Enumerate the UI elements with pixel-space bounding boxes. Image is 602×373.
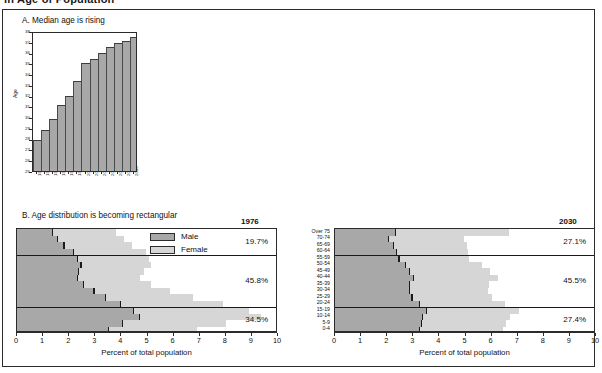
panel-a-y-tick: 34 [14,73,30,77]
pyramid-x-tick: 0 [9,336,23,345]
panel-a-plot-area [32,32,137,172]
age-group-label: Over 75 [312,229,330,234]
panel-a-y-tick: 36 [14,51,30,55]
pyramid-x-tick: 8 [536,336,550,345]
pyramid-1976-year-label: 1976 [241,217,259,226]
age-group-label: 0-4 [323,326,331,331]
panel-a-y-tickmark [29,172,32,173]
pyramid-x-axis-title: Percent of total population [334,348,595,357]
legend-label-female: Female [181,245,208,254]
age-group-label: 35-39 [317,281,330,286]
pyramid-x-tick: 4 [431,336,445,345]
pyramid-segment-divider [335,255,594,256]
pyramid-x-tick: 10 [588,336,602,345]
panel-a-y-tick: 32 [14,94,30,98]
pyramid-x-tick: 7 [510,336,524,345]
age-group-label: 30-34 [317,287,330,292]
pyramid-x-tick: 0 [327,336,341,345]
pyramid-x-tick: 1 [353,336,367,345]
panel-a-y-tick: 35 [14,62,30,66]
age-group-label: 55-59 [317,255,330,260]
pyramid-x-tick: 7 [192,336,206,345]
panel-a-y-tick: 30 [14,116,30,120]
age-group-label: 40-44 [317,274,330,279]
pyramid-2030-plot-area: 27.1%45.5%27.4% [334,228,595,332]
pyramid-segment-percent: 19.7% [245,237,268,246]
cropped-caption-strip: in Age of Population [0,0,599,7]
age-group-label: 10-14 [317,313,330,318]
pyramid-segment-percent: 45.8% [245,276,268,285]
pyramid-x-tick: 8 [218,336,232,345]
pyramid-x-tick: 4 [113,336,127,345]
panel-a-y-tick: 27 [14,148,30,152]
pyramid-segment-percent: 27.4% [563,315,586,324]
pyramid-x-tick: 2 [379,336,393,345]
age-group-label: 20-24 [317,300,330,305]
pyramid-2030-year-label: 2030 [559,217,577,226]
age-group-label: 60-64 [317,248,330,253]
age-group-label: 5-9 [323,320,331,325]
panel-a-y-tick: 31 [14,105,30,109]
pyramid-1976-plot-area: 19.7%45.8%34.5% [16,228,277,332]
panel-a-y-tick: 37 [14,41,30,45]
pyramid-x-tick: 5 [140,336,154,345]
pyramid-segment-percent: 27.1% [563,237,586,246]
pyramid-x-tick: 6 [166,336,180,345]
legend-label-male: Male [181,232,198,241]
age-group-label: 25-29 [317,294,330,299]
age-group-label: 70-74 [317,235,330,240]
panel-a-y-tick: 38 [14,30,30,34]
panel-b-title: B. Age distribution is becoming rectangu… [22,211,177,220]
pyramid-segment-divider [17,255,276,256]
pyramid-x-tick: 9 [562,336,576,345]
pyramid-x-tick: 1 [35,336,49,345]
legend-swatch-male [150,233,175,241]
age-group-label: 65-69 [317,242,330,247]
pyramid-x-tick: 3 [405,336,419,345]
panel-a-y-tick: 26 [14,159,30,163]
median-age-step [130,37,137,171]
pyramid-segment-percent: 45.5% [563,276,586,285]
panel-a-y-tick: 29 [14,127,30,131]
panel-a-y-tick: 28 [14,137,30,141]
age-group-label: 45-49 [317,268,330,273]
pyramid-x-tick: 3 [87,336,101,345]
pyramid-x-tick: 2 [61,336,75,345]
pyramid-x-axis-title: Percent of total population [16,348,277,357]
age-group-label: 15-19 [317,307,330,312]
pyramid-segment-divider [17,307,276,308]
panel-a-title: A. Median age is rising [22,16,105,25]
pyramid-x-tick: 5 [458,336,472,345]
cropped-caption-text: in Age of Population [4,0,115,5]
pyramid-x-tick: 6 [484,336,498,345]
age-group-labels: Over 7570-7465-6960-6455-5950-5445-4940-… [279,228,332,332]
pyramid-x-tick: 10 [270,336,284,345]
panel-a-y-tick: 25 [14,170,30,174]
panel-a-y-tick: 33 [14,84,30,88]
pyramid-segment-percent: 34.5% [245,315,268,324]
age-group-label: 50-54 [317,261,330,266]
pyramid-x-tick: 9 [244,336,258,345]
legend-swatch-female [150,246,175,254]
pyramid-segment-divider [335,307,594,308]
